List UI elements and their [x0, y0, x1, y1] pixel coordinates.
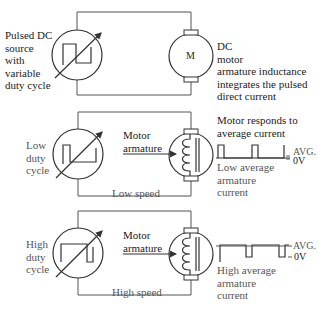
- label-line: Motor: [123, 129, 162, 142]
- low-duty-waveform: [216, 145, 290, 159]
- label-line: direct current: [217, 90, 307, 103]
- label-line: with: [5, 54, 52, 67]
- label-line: High: [26, 238, 49, 251]
- label-line: cycle: [26, 263, 49, 276]
- label-line: integrates the pulsed: [217, 78, 307, 91]
- label-line: Low: [26, 139, 49, 152]
- label-line: Pulsed DC: [5, 29, 52, 42]
- label-line: Motor: [123, 229, 162, 242]
- high-speed-label: High speed: [112, 286, 162, 299]
- pulsed-source-low-icon: [53, 129, 103, 179]
- label-line: armature: [123, 242, 162, 255]
- label-line: DC: [217, 40, 307, 53]
- label-line: Low average: [217, 161, 274, 174]
- label-line: variable: [5, 67, 52, 80]
- low-speed-label: Low speed: [112, 187, 160, 200]
- motor-symbol: M: [186, 50, 195, 63]
- source-label: Pulsed DC source with variable duty cycl…: [5, 29, 52, 92]
- low-current-label: Low average armature current: [217, 161, 274, 199]
- motor-label: DC motor armature inductance integrates …: [217, 40, 307, 103]
- high-current-label: High average armature current: [217, 264, 276, 302]
- label-line: armature: [217, 174, 274, 187]
- label-line: current: [217, 289, 276, 302]
- zero-volt-label: 0V: [293, 155, 305, 168]
- label-line: motor: [217, 53, 307, 66]
- label-line: duty: [26, 152, 49, 165]
- low-duty-label: Low duty cycle: [26, 139, 49, 177]
- high-duty-waveform: [216, 245, 292, 262]
- response-label: Motor responds to average current: [217, 114, 298, 139]
- label-line: duty cycle: [5, 79, 52, 92]
- label-line: Motor responds to: [217, 114, 298, 127]
- label-line: average current: [217, 127, 298, 140]
- pulsed-source-icon: [52, 30, 102, 80]
- armature-label: Motor armature: [123, 129, 162, 154]
- label-line: armature: [123, 142, 162, 155]
- pulsed-source-high-icon: [53, 228, 103, 278]
- label-line: High average: [217, 264, 276, 277]
- armature-label-high: Motor armature: [123, 229, 162, 254]
- high-duty-label: High duty cycle: [26, 238, 49, 276]
- label-line: source: [5, 42, 52, 55]
- label-line: armature inductance: [217, 65, 307, 78]
- label-line: duty: [26, 251, 49, 264]
- zero-volt-label-high: 0V: [294, 251, 306, 264]
- label-line: current: [217, 186, 274, 199]
- armature-coil-icon: [169, 129, 213, 181]
- label-line: armature: [217, 277, 276, 290]
- label-line: cycle: [26, 164, 49, 177]
